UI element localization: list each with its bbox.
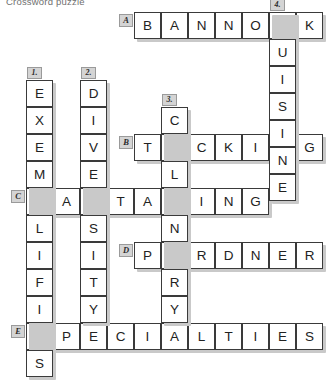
grid-cell[interactable]: C (107, 323, 134, 350)
clue-label-e[interactable]: E (11, 325, 25, 338)
grid-cell[interactable]: C (161, 107, 188, 134)
grid-cell[interactable]: U (269, 39, 296, 66)
grid-cell[interactable]: R (188, 242, 215, 269)
grid-cell[interactable]: R (161, 269, 188, 296)
page-title: Crossword puzzle (6, 0, 85, 7)
grid-cell[interactable]: E (269, 323, 296, 350)
grid-cell[interactable]: I (26, 242, 53, 269)
grid-cell[interactable]: I (269, 120, 296, 147)
grid-cell[interactable]: I (269, 66, 296, 93)
grid-cell[interactable]: T (80, 269, 107, 296)
grid-cell[interactable]: I (188, 188, 215, 215)
grid-cell[interactable]: D (80, 80, 107, 107)
grid-cell[interactable]: N (161, 215, 188, 242)
grid-cell[interactable]: S (80, 215, 107, 242)
grid-cell[interactable]: E (269, 174, 296, 201)
grid-cell[interactable]: C (188, 134, 215, 161)
grid-cell[interactable]: N (215, 12, 242, 39)
grid-cell[interactable]: L (188, 323, 215, 350)
grid-cell[interactable]: I (80, 242, 107, 269)
grid-cell[interactable]: N (215, 188, 242, 215)
grid-cell[interactable]: R (296, 242, 323, 269)
grid-cell[interactable]: P (134, 242, 161, 269)
grid-cell[interactable]: I (242, 134, 269, 161)
grid-cell[interactable]: E (80, 161, 107, 188)
grid-cell[interactable]: A (161, 323, 188, 350)
grid-cell[interactable]: E (26, 134, 53, 161)
clue-label-b[interactable]: B (119, 136, 133, 149)
grid-cell[interactable]: S (296, 323, 323, 350)
grid-cell[interactable]: I (134, 323, 161, 350)
grid-cell[interactable]: G (242, 188, 269, 215)
grid-cell[interactable]: G (296, 134, 323, 161)
grid-cell[interactable]: X (26, 107, 53, 134)
grid-cell[interactable]: L (161, 161, 188, 188)
grid-cell[interactable]: A (134, 188, 161, 215)
grid-cell[interactable]: M (26, 161, 53, 188)
clue-label-a[interactable]: A (119, 14, 133, 27)
clue-label-1[interactable]: 1. (27, 67, 42, 79)
clue-label-d[interactable]: D (119, 244, 133, 257)
grid-cell[interactable]: T (134, 134, 161, 161)
grid-cell[interactable]: V (80, 134, 107, 161)
grid-cell[interactable]: N (269, 147, 296, 174)
grid-cell[interactable]: I (80, 107, 107, 134)
grid-cell[interactable]: I (242, 323, 269, 350)
grid-cell[interactable]: A (161, 12, 188, 39)
grid-cell[interactable]: T (107, 188, 134, 215)
grid-cell[interactable]: T (215, 323, 242, 350)
grid-cell[interactable]: S (26, 350, 53, 377)
grid-cell[interactable]: N (242, 242, 269, 269)
clue-label-2[interactable]: 2. (81, 67, 96, 79)
grid-cell[interactable]: E (80, 323, 107, 350)
grid-cell[interactable]: E (269, 242, 296, 269)
grid-cell[interactable]: Y (161, 296, 188, 323)
grid-cell[interactable]: K (296, 12, 323, 39)
grid-cell[interactable]: E (26, 80, 53, 107)
grid-cell[interactable]: F (26, 269, 53, 296)
clue-label-4[interactable]: 4. (270, 0, 285, 11)
clue-label-3[interactable]: 3. (162, 94, 177, 106)
grid-cell[interactable]: N (188, 12, 215, 39)
grid-cell[interactable]: Y (80, 296, 107, 323)
grid-cell[interactable]: A (53, 188, 80, 215)
grid-cell[interactable]: P (53, 323, 80, 350)
grid-cell[interactable]: B (134, 12, 161, 39)
grid-cell[interactable]: O (242, 12, 269, 39)
grid-cell[interactable]: D (215, 242, 242, 269)
grid-cell[interactable]: I (26, 296, 53, 323)
grid-cell[interactable]: L (26, 215, 53, 242)
grid-cell[interactable]: K (215, 134, 242, 161)
grid-cell[interactable]: S (269, 93, 296, 120)
clue-label-c[interactable]: C (11, 190, 25, 203)
